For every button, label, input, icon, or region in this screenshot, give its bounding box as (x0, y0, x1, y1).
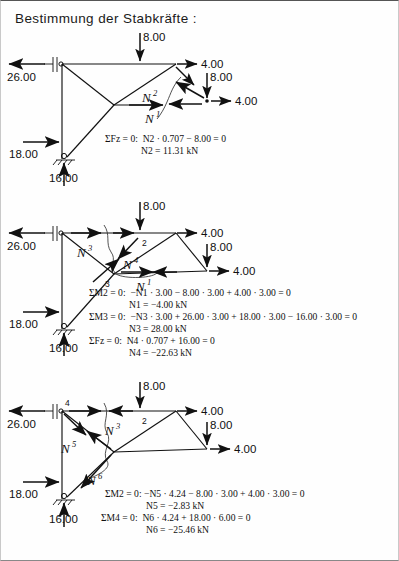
figure-3: 8.00 4.00 26.00 18.00 16.00 N 3 N 5 N 6 … (1, 1, 399, 561)
node-number-3-b: 2 (142, 416, 147, 426)
member-force-arrow-N6-3 (81, 455, 111, 488)
member-force-label-N3-3: N (104, 423, 115, 438)
reaction-label-support-vertical-3: 16.00 (49, 513, 78, 525)
equation-3-2: N5 = −2.83 kN (146, 500, 204, 511)
member-force-label-N5-3: N (60, 441, 71, 456)
wall-connector-icon-3 (44, 404, 63, 419)
reaction-label-left-horizontal-3: 26.00 (7, 418, 36, 430)
node-number-3-a: 4 (65, 398, 70, 408)
member-force-sup-N6-3: 6 (98, 471, 103, 481)
member-force-sup-N5-3: 5 (72, 439, 76, 449)
equation-3-4: N6 = −25.46 kN (146, 524, 209, 535)
load-label-top-horizontal-3: 4.00 (201, 405, 223, 417)
equation-3-3: ΣM4 = 0: N6 · 4.24 + 18.00 · 6.00 = 0 (101, 512, 251, 523)
page-sheet: Bestimmung der Stabkräfte : (0, 0, 399, 561)
member-force-sup-N3-3: 3 (115, 421, 120, 431)
member-force-arrow-N5-3 (64, 414, 86, 435)
load-label-top-vertical-3: 8.00 (143, 380, 165, 392)
member-force-label-N6-3: N (86, 473, 97, 488)
fb-load-label-horizontal-3: 4.00 (234, 443, 256, 455)
fb-load-label-vertical-3: 8.00 (210, 419, 232, 431)
reaction-label-support-horizontal-3: 18.00 (9, 488, 38, 500)
equation-3-1: ΣM2 = 0: −N5 · 4.24 − 8.00 · 3.00 + 4.00… (105, 488, 305, 499)
